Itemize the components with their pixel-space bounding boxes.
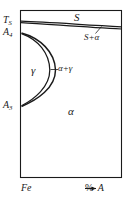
label-temperature-A4: A4: [3, 27, 13, 39]
phase-diagram-figure: TS A4 A3 S S+α γ α+γ α Fe % A: [0, 0, 135, 200]
label-axis-fe: Fe: [21, 183, 32, 193]
label-phase-gamma: γ: [31, 65, 35, 76]
phase-diagram-canvas: [0, 0, 135, 200]
label-phase-alpha-plus-gamma: α+γ: [58, 64, 72, 73]
component-a-symbol: A: [98, 182, 105, 193]
label-axis-percent-a: % A: [85, 183, 105, 193]
label-phase-alpha: α: [68, 106, 74, 117]
label-phase-S: S: [74, 12, 80, 23]
label-temperature-A3: A3: [3, 100, 13, 112]
diagram-frame: [21, 11, 122, 178]
percent-sign: %: [85, 182, 94, 193]
label-temperature-Ts: TS: [3, 15, 12, 27]
label-phase-S-plus-alpha: S+α: [84, 33, 99, 42]
